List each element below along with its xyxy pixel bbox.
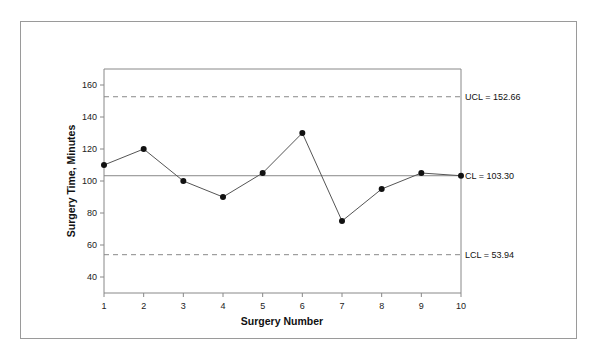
x-tick-label: 5: [260, 301, 265, 311]
x-tick-label: 3: [181, 301, 186, 311]
data-point-marker: [141, 146, 147, 152]
data-point-marker: [418, 170, 424, 176]
x-tick-label: 10: [456, 301, 466, 311]
ucl-label: UCL = 152.66: [465, 92, 520, 102]
x-tick-label: 8: [379, 301, 384, 311]
series-line: [104, 133, 461, 221]
cl-label: CL = 103.30: [465, 171, 514, 181]
y-tick-label: 80: [87, 208, 97, 218]
data-point-marker: [458, 173, 464, 179]
chart-axes: 40608010012014016012345678910: [82, 69, 466, 311]
x-axis-title: Surgery Number: [241, 315, 323, 327]
x-tick-label: 7: [339, 301, 344, 311]
x-tick-label: 6: [300, 301, 305, 311]
data-point-marker: [299, 130, 305, 136]
x-tick-label: 2: [141, 301, 146, 311]
data-point-marker: [339, 218, 345, 224]
y-tick-label: 160: [82, 80, 97, 90]
data-point-marker: [180, 178, 186, 184]
y-axis-title: Surgery Time, Minutes: [65, 125, 77, 238]
y-tick-label: 140: [82, 112, 97, 122]
x-tick-label: 9: [419, 301, 424, 311]
data-point-marker: [379, 186, 385, 192]
y-tick-label: 120: [82, 144, 97, 154]
data-point-marker: [260, 170, 266, 176]
y-tick-label: 60: [87, 240, 97, 250]
y-tick-label: 40: [87, 272, 97, 282]
control-chart: UCL = 152.66CL = 103.30LCL = 53.94 40608…: [0, 0, 596, 360]
lcl-label: LCL = 53.94: [465, 250, 514, 260]
data-point-marker: [220, 194, 226, 200]
data-series: [101, 130, 464, 224]
y-tick-label: 100: [82, 176, 97, 186]
x-tick-label: 1: [101, 301, 106, 311]
data-point-marker: [101, 162, 107, 168]
x-tick-label: 4: [220, 301, 225, 311]
